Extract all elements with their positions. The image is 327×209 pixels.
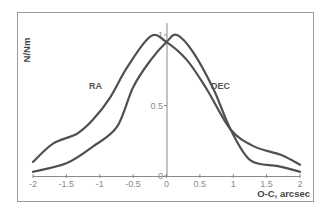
y-axis-title: N/Nm [21, 38, 32, 63]
x-tick-label: 0 [164, 179, 169, 189]
series-label-ra: RA [89, 81, 102, 91]
x-tick-label: -0.5 [125, 179, 141, 189]
series-label-dec: DEC [211, 81, 231, 91]
x-tick-label: 1 [231, 179, 236, 189]
x-tick-label: -1 [96, 179, 104, 189]
y-tick-label: 0.5 [150, 101, 163, 111]
x-tick-label: 0.5 [194, 179, 207, 189]
y-tick-label: 0 [158, 171, 163, 181]
x-axis-title: O-C, arcsec [257, 188, 310, 199]
x-tick-label: -1.5 [59, 179, 75, 189]
chart: -2-1.5-1-0.500.511.5200.51 RA DEC O-C, a… [0, 0, 327, 209]
x-tick-label: -2 [29, 179, 37, 189]
